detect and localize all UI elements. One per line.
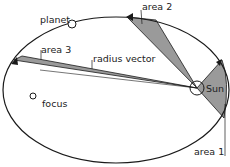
- area-2-label: area 2: [142, 1, 172, 12]
- radius-vector-line: [40, 70, 197, 88]
- kepler-diagram: planet area 2 area 3 radius vector focus…: [0, 0, 230, 167]
- area-3-label: area 3: [41, 44, 71, 55]
- sun-label: Sun: [206, 83, 224, 94]
- orbit-ellipse: [3, 17, 229, 163]
- focus-circle: [30, 93, 36, 99]
- focus-label: focus: [42, 98, 67, 109]
- planet-label: planet: [40, 14, 70, 25]
- radius-vector-label: radius vector: [93, 53, 156, 64]
- area-1-label: area 1: [194, 146, 224, 157]
